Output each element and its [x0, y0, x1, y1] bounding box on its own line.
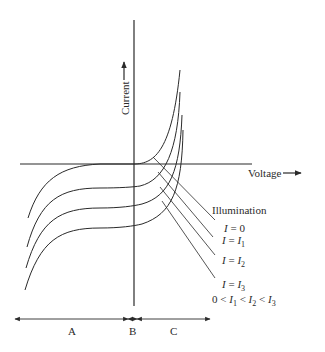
legend-entry-i3: I = I3: [221, 278, 245, 293]
legend-condition: 0 < I1 < I2 < I3: [212, 293, 276, 308]
leader-lines: [153, 157, 215, 278]
legend-entry-i1: I = I1: [221, 234, 245, 249]
curve-i3: [25, 130, 183, 290]
iv-curves: [25, 70, 183, 290]
curve-i1: [27, 92, 180, 247]
current-label: Current: [119, 81, 131, 115]
legend-entry-i2: I = I2: [221, 254, 245, 269]
y-axis-label: Current: [119, 81, 131, 115]
region-c-label: C: [170, 325, 177, 337]
curve-i2: [26, 115, 182, 268]
legend-entry-i0: I = 0: [223, 222, 245, 234]
photodiode-iv-diagram: Current Voltage Illumination I = 0 I = I…: [0, 0, 325, 352]
region-a-label: A: [68, 325, 76, 337]
illumination-legend: Illumination I = 0 I = I1 I = I2 I = I3 …: [212, 204, 276, 308]
curve-i0: [28, 70, 180, 218]
legend-title: Illumination: [212, 204, 267, 216]
voltage-label: Voltage: [248, 167, 282, 179]
region-b-label: B: [129, 325, 136, 337]
